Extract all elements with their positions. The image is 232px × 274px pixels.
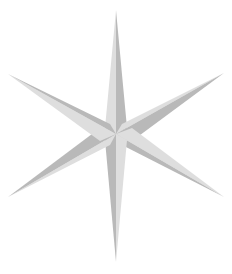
ray-lower-right-light-facet — [116, 128, 224, 197]
ray-bottom-dark-facet — [105, 134, 116, 262]
six-pointed-star-icon — [0, 0, 232, 274]
ray-upper-left-dark-facet — [8, 74, 116, 134]
ray-upper-left-light-facet — [8, 74, 116, 141]
ray-top-dark-facet — [116, 10, 127, 134]
star-rays — [8, 10, 224, 262]
ray-bottom-light-facet — [116, 134, 127, 262]
star-canvas: six-pointed star — [0, 0, 232, 274]
ray-lower-right-dark-facet — [116, 134, 224, 197]
ray-top-light-facet — [105, 10, 116, 134]
